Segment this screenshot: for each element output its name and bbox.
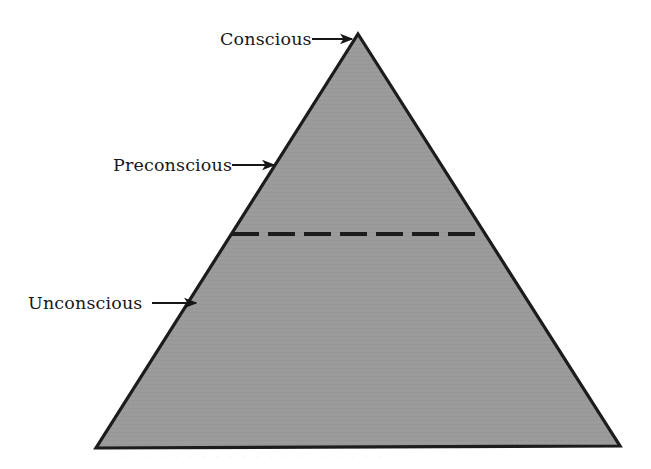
label-unconscious-text: Unconscious (28, 293, 142, 313)
diagram-canvas: · · · · · · · · · · · · · · · · · · · · (0, 0, 651, 469)
label-preconscious: Preconscious (113, 155, 274, 175)
triangle-diagram: · · · · · · · · · · · · · · · · · · · · (0, 0, 651, 469)
label-conscious: Conscious (220, 29, 352, 49)
conscious-region (300, 30, 420, 100)
ghost-bleed-text: · · · · · · · · · · · · · · · · · · · · (120, 448, 384, 466)
label-unconscious: Unconscious (28, 293, 196, 313)
page-bleed-ghost: · · · · · · · · · · · · · · · · · · · · (120, 448, 384, 466)
label-conscious-text: Conscious (220, 29, 312, 49)
label-preconscious-text: Preconscious (113, 155, 232, 175)
